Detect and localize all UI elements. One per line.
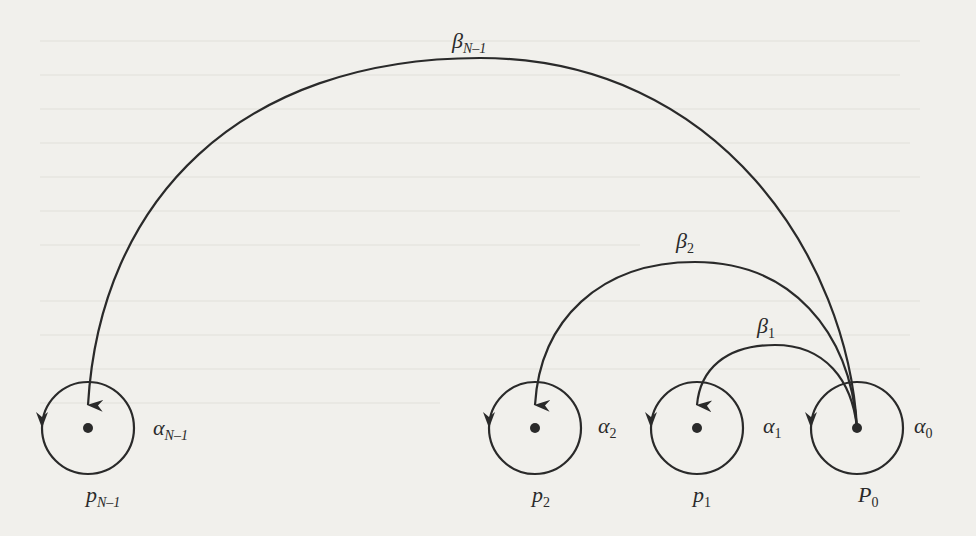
edges xyxy=(88,58,857,428)
self-loop-arrow-icon xyxy=(483,412,495,428)
loop-label-alpha-1: α1 xyxy=(763,413,782,441)
edge-beta-2 xyxy=(535,262,857,428)
node-label-pN-1: pN–1 xyxy=(84,482,120,510)
node-dot-p2 xyxy=(530,423,540,433)
edge-beta-1 xyxy=(697,345,857,428)
node-dot-P0 xyxy=(852,423,862,433)
self-loop-arrow-icon xyxy=(645,412,657,428)
node-label-P0: P0 xyxy=(857,482,878,510)
node-dot-p1 xyxy=(692,423,702,433)
node-pN-1 xyxy=(36,382,134,474)
edge-label-beta-N-1: βN–1 xyxy=(451,28,486,56)
node-dot-pN-1 xyxy=(83,423,93,433)
loop-label-alpha-N-1: αN–1 xyxy=(153,415,188,443)
node-p1 xyxy=(645,382,743,474)
loop-label-alpha-2: α2 xyxy=(598,413,617,441)
node-label-p1: p1 xyxy=(691,482,711,510)
loop-label-alpha-0: α0 xyxy=(914,413,933,441)
transition-diagram: βN–1 β2 β1 αN–1 α2 α1 α0 pN–1 p2 p1 P0 xyxy=(0,0,976,536)
node-label-p2: p2 xyxy=(530,482,550,510)
edge-beta-N-1 xyxy=(88,58,857,428)
node-p2 xyxy=(483,382,581,474)
self-loop-arrow-icon xyxy=(805,412,817,428)
self-loop-arrow-icon xyxy=(36,412,48,428)
edge-label-beta-1: β1 xyxy=(756,313,775,341)
edge-label-beta-2: β2 xyxy=(675,228,694,256)
